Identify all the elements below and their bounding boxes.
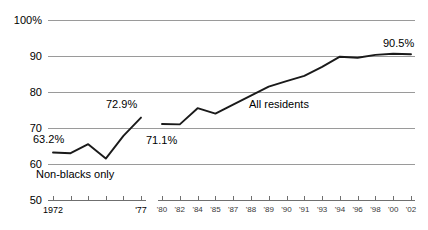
x-tick [358, 196, 359, 200]
x-tick [53, 196, 54, 200]
x-tick [269, 196, 270, 200]
x-axis-left [48, 200, 146, 201]
x-tick [340, 196, 341, 200]
x-axis-label: '90 [281, 206, 291, 214]
x-axis-label: '96 [352, 206, 362, 214]
x-axis-label: '94 [335, 206, 345, 214]
annotation-72-9-percent: 72.9% [106, 99, 137, 110]
x-tick [198, 196, 199, 200]
x-tick [322, 196, 323, 200]
chart-container: 100% 90 80 70 60 50 1972'77 '80'82'84'85… [0, 0, 428, 230]
x-axis-label: '02 [406, 206, 416, 214]
x-axis-label: '87 [228, 206, 238, 214]
x-axis-label: '91 [299, 206, 309, 214]
annotation-63-2-percent: 63.2% [33, 134, 64, 145]
x-tick [141, 196, 142, 200]
x-tick [88, 196, 89, 200]
x-tick [215, 196, 216, 200]
x-axis-label: '80 [157, 206, 167, 214]
x-tick [251, 196, 252, 200]
x-axis-label: '98 [370, 206, 380, 214]
x-tick [106, 196, 107, 200]
x-tick [162, 196, 163, 200]
annotation-90-5-percent: 90.5% [383, 38, 414, 49]
x-tick [287, 196, 288, 200]
line-all-residents [162, 54, 411, 125]
x-axis-label: 1972 [43, 206, 63, 214]
x-axis-label: '00 [388, 206, 398, 214]
x-tick [71, 196, 72, 200]
x-tick [304, 196, 305, 200]
x-tick [233, 196, 234, 200]
x-axis-label: '93 [317, 206, 327, 214]
x-tick [180, 196, 181, 200]
x-axis-label: '84 [192, 206, 202, 214]
x-axis-right [158, 200, 415, 201]
x-axis-label: '77 [135, 206, 147, 214]
x-axis-label: '89 [263, 206, 273, 214]
x-tick [123, 196, 124, 200]
x-tick [375, 196, 376, 200]
x-axis-label: '82 [175, 206, 185, 214]
x-axis-label: '85 [210, 206, 220, 214]
x-axis-label: '88 [246, 206, 256, 214]
series-lines [0, 0, 428, 230]
x-tick [393, 196, 394, 200]
label-all-residents: All residents [249, 99, 309, 110]
label-non-blacks-only: Non-blacks only [36, 169, 114, 180]
annotation-71-1-percent: 71.1% [146, 135, 177, 146]
line-non-blacks-only [53, 118, 141, 159]
x-tick [411, 196, 412, 200]
